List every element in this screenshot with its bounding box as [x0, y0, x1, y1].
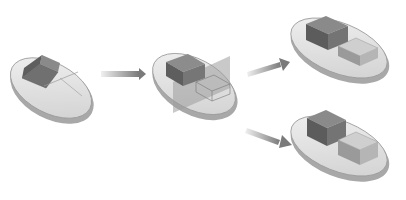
diagram-canvas: [0, 0, 406, 200]
arrow-down-right-icon: [245, 128, 292, 148]
mouse-result-top: [282, 6, 399, 97]
arrow-up-right-icon: [247, 58, 290, 77]
arrow-right-icon: [101, 68, 146, 80]
mouse-input: [0, 45, 104, 137]
mouse-result-bottom: [282, 104, 399, 195]
mouse-split: [142, 41, 249, 134]
